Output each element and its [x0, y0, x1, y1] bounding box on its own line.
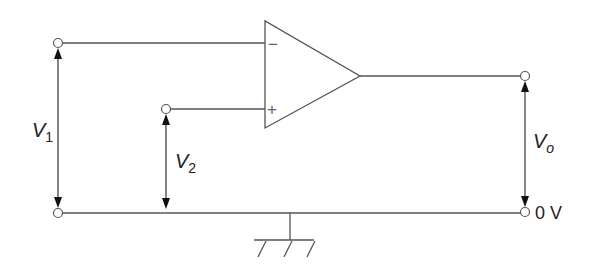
inverting-input-sign: −	[268, 35, 278, 54]
terminals	[54, 39, 530, 218]
terminal-output	[521, 72, 530, 81]
label-vo: Vo	[533, 130, 554, 156]
label-v1: V1	[32, 119, 53, 145]
arrow-up-icon	[521, 81, 529, 92]
arrow-down-icon	[162, 198, 170, 209]
label-v2: V2	[175, 150, 196, 176]
voltage-arrow-v1	[54, 48, 62, 208]
non-inverting-input-sign: +	[267, 100, 277, 119]
circuit-diagram: − + V1 V2 Vo 0 V	[0, 0, 594, 277]
opamp-triangle	[265, 21, 360, 128]
ground-icon	[254, 240, 315, 257]
arrow-down-icon	[54, 197, 62, 208]
terminal-zero-volt	[521, 208, 530, 217]
arrow-up-icon	[54, 48, 62, 59]
terminal-v2-top	[162, 105, 171, 114]
terminal-v1-top	[54, 39, 63, 48]
voltage-arrow-v2	[162, 114, 170, 209]
wires	[62, 43, 521, 240]
voltage-arrow-vo	[521, 81, 529, 207]
terminal-common-left	[54, 209, 63, 218]
opamp-symbol: − +	[265, 21, 360, 128]
arrow-up-icon	[162, 114, 170, 125]
label-zero-volt: 0 V	[535, 203, 562, 223]
arrow-down-icon	[521, 196, 529, 207]
